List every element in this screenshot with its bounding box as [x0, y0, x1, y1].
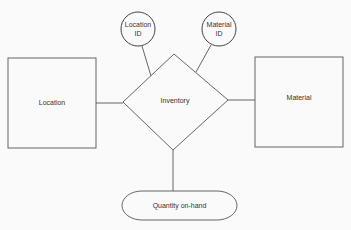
entity-material-box: [255, 57, 343, 147]
attribute-locationid-line1: Location: [121, 20, 155, 29]
attribute-quantity-label: Quantity on-hand: [122, 201, 237, 210]
entity-location-label: Location: [8, 98, 96, 107]
entity-material-label: Material: [255, 93, 343, 102]
attribute-materialid-label: Material ID: [202, 20, 236, 38]
edge-locationid-inventory: [142, 46, 151, 76]
attribute-materialid-line2: ID: [202, 29, 236, 38]
diagram-shapes: [0, 0, 351, 230]
er-diagram: Location Material Inventory Location ID …: [0, 0, 351, 230]
attribute-locationid-line2: ID: [121, 29, 155, 38]
attribute-locationid-label: Location ID: [121, 20, 155, 38]
relationship-inventory-label: Inventory: [133, 96, 217, 105]
edge-materialid-inventory: [196, 45, 211, 72]
attribute-materialid-line1: Material: [202, 20, 236, 29]
